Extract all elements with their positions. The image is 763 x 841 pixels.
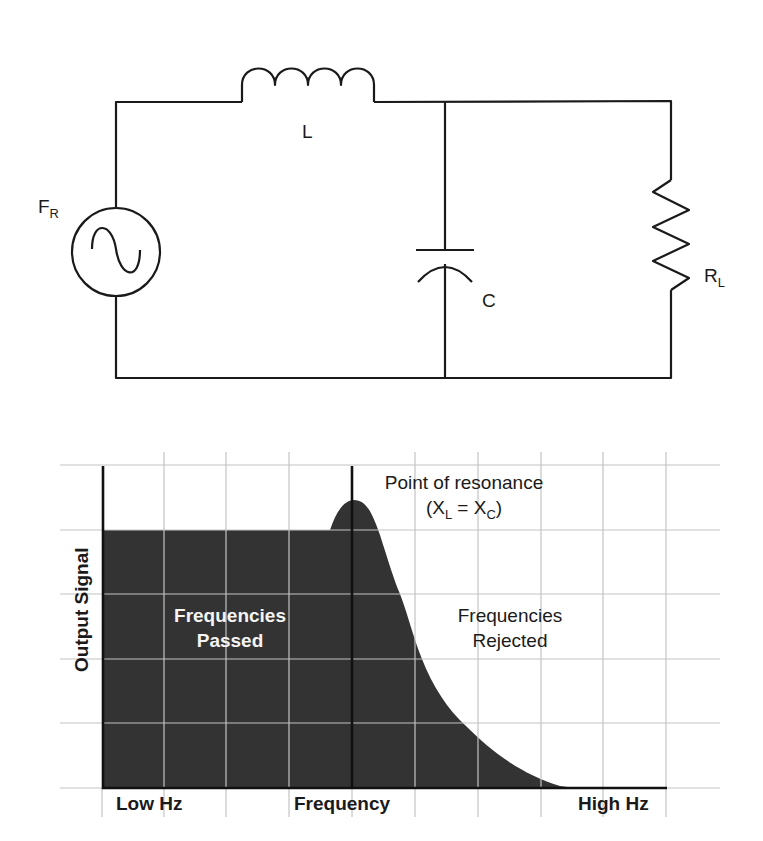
circuit (72, 69, 689, 379)
x-label-low: Low Hz (116, 794, 183, 813)
resonance-annotation: Point of resonance (XL = XC) (358, 473, 570, 517)
diagram-canvas (0, 0, 763, 841)
passed-line2: Passed (140, 631, 320, 650)
inductor-label: L (302, 122, 313, 141)
resistor-icon (653, 180, 689, 290)
load-label: RL (704, 266, 725, 285)
load-label-main: R (704, 265, 718, 286)
inductor-icon (242, 69, 374, 103)
wire-top-left (116, 102, 242, 208)
x-label-mid: Frequency (294, 794, 390, 813)
passed-line1: Frequencies (140, 606, 320, 625)
wire-right-bottom (116, 290, 671, 378)
capacitor-label: C (482, 291, 496, 310)
rejected-line2: Rejected (430, 631, 590, 650)
resonance-title: Point of resonance (358, 473, 570, 492)
sine-wave-icon (92, 228, 140, 272)
source-label-main: F (38, 196, 50, 217)
rejected-annotation: Frequencies Rejected (430, 606, 590, 650)
x-label-high: High Hz (578, 794, 649, 813)
source-label-sub: R (50, 206, 59, 221)
y-axis-label: Output Signal (71, 552, 93, 672)
rejected-line1: Frequencies (430, 606, 590, 625)
resonance-formula: (XL = XC) (358, 498, 570, 517)
load-label-sub: L (718, 275, 725, 290)
passed-annotation: Frequencies Passed (140, 606, 320, 650)
wire-top-right (374, 101, 671, 180)
source-label: FR (38, 197, 59, 216)
